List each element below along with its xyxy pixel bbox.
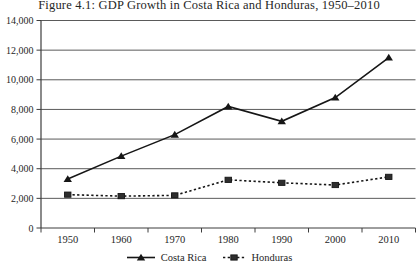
legend-label-costa-rica: Costa Rica (161, 252, 207, 263)
chart-legend: Costa RicaHonduras (0, 249, 418, 266)
y-axis-label: 10,000 (6, 74, 34, 85)
y-axis-label: 8,000 (11, 104, 34, 115)
marker-honduras (118, 194, 124, 199)
legend-item-costa-rica: Costa Rica (126, 252, 207, 263)
chart-figure: Figure 4.1: GDP Growth in Costa Rica and… (0, 0, 418, 269)
x-axis-label: 1980 (218, 234, 239, 245)
y-axis-label: 12,000 (6, 45, 34, 56)
marker-honduras-legend (231, 255, 237, 260)
y-axis-label: 14,000 (6, 15, 34, 26)
legend-label-honduras: Honduras (251, 252, 292, 263)
marker-honduras (172, 193, 178, 198)
y-axis-label: 4,000 (11, 163, 34, 174)
y-axis-label: 2,000 (11, 193, 34, 204)
marker-costa-rica (224, 103, 232, 110)
x-axis-label: 2010 (378, 234, 399, 245)
x-axis-label: 1970 (164, 234, 185, 245)
x-axis-label: 2000 (325, 234, 346, 245)
marker-costa-rica (171, 131, 179, 138)
x-axis-label: 1950 (57, 234, 78, 245)
x-axis-label: 1960 (111, 234, 132, 245)
legend-sample-costa-rica (126, 252, 156, 263)
marker-honduras (225, 177, 231, 182)
legend-item-honduras: Honduras (222, 252, 292, 263)
y-axis-label: 0 (29, 223, 34, 234)
series-line-costa-rica (68, 58, 389, 180)
legend-sample-honduras (222, 252, 246, 263)
marker-honduras (386, 174, 392, 179)
line-chart: 02,0004,0006,0008,00010,00012,00014,0001… (0, 0, 418, 248)
x-axis-label: 1990 (271, 234, 292, 245)
y-axis-label: 6,000 (11, 134, 34, 145)
marker-costa-rica (385, 54, 393, 61)
marker-honduras (65, 192, 71, 197)
marker-honduras (279, 180, 285, 185)
marker-honduras (332, 182, 338, 187)
